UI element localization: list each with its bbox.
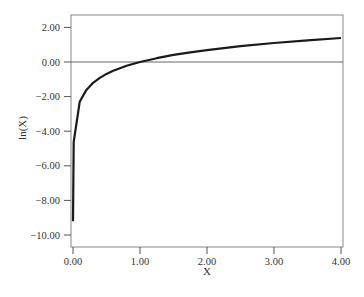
- x-axis-label: X: [203, 265, 211, 277]
- y-tick-label: 2.00: [42, 22, 60, 33]
- y-axis-label: ln(X): [16, 116, 29, 140]
- x-tick-label: 1.00: [131, 256, 149, 267]
- y-tick-label: −10.00: [30, 230, 60, 241]
- x-tick-label: 4.00: [332, 256, 350, 267]
- y-tick-label: −8.00: [36, 195, 60, 206]
- x-tick-label: 3.00: [265, 256, 283, 267]
- ln-x-curve: [73, 38, 341, 221]
- x-tick-label: 0.00: [64, 256, 82, 267]
- y-axis-ticks: 2.000.00−2.00−4.00−6.00−8.00−10.00: [30, 22, 71, 241]
- y-tick-label: −4.00: [36, 126, 60, 137]
- y-tick-label: −2.00: [36, 91, 60, 102]
- y-tick-label: −6.00: [36, 160, 60, 171]
- line-chart: 2.000.00−2.00−4.00−6.00−8.00−10.00 0.001…: [0, 0, 364, 297]
- y-tick-label: 0.00: [42, 57, 60, 68]
- x-axis-ticks: 0.001.002.003.004.00: [64, 247, 350, 267]
